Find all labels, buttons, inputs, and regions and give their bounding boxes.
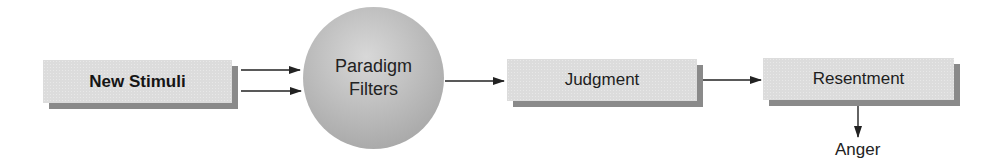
connector-layer (0, 0, 1002, 168)
